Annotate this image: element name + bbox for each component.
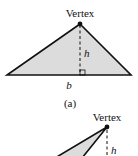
figure-a: Vertex h b (a) (7, 7, 131, 110)
vertex-label-a: Vertex (66, 7, 95, 19)
base-label-a: b (66, 79, 72, 91)
vertex-label-b: Vertex (93, 111, 122, 123)
height-label-a: h (84, 47, 90, 59)
triangle-b (55, 127, 107, 156)
triangle-a (7, 24, 131, 75)
vertex-dot-a (78, 22, 83, 27)
triangle-diagram: Vertex h b (a) Vertex h (0, 0, 138, 156)
vertex-dot-b (105, 125, 110, 130)
height-label-b: h (111, 144, 117, 156)
caption-a: (a) (64, 97, 77, 110)
figure-b: Vertex h (55, 111, 122, 156)
